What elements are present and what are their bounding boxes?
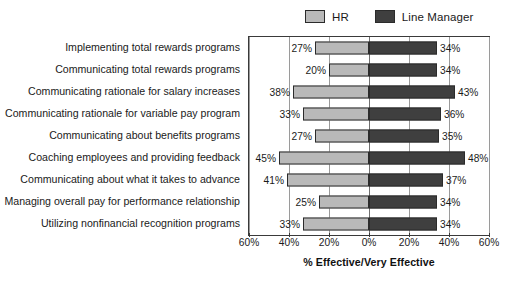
- bar-line-manager: [369, 130, 439, 143]
- x-tick-label: 20%: [319, 237, 339, 248]
- bar-line-manager: [369, 108, 441, 121]
- bar-value-hr: 33%: [280, 109, 300, 120]
- gridline: [489, 37, 490, 235]
- bar-value-line-manager: 34%: [440, 197, 460, 208]
- bar-value-hr: 25%: [296, 197, 316, 208]
- category-label: Communicating about what it takes to adv…: [20, 168, 240, 190]
- bar-hr: [315, 42, 369, 55]
- category-label: Managing overall pay for performance rel…: [4, 190, 240, 212]
- bar-row: 33%36%: [249, 103, 489, 125]
- x-tick-label: 60%: [239, 237, 259, 248]
- bar-row: 27%35%: [249, 125, 489, 147]
- bar-value-line-manager: 37%: [446, 175, 466, 186]
- plot-area: 27%34%20%34%38%43%33%36%27%35%45%48%41%3…: [248, 36, 490, 236]
- bar-value-hr: 45%: [256, 153, 276, 164]
- x-tick-label: 40%: [279, 237, 299, 248]
- x-tick-label: 0%: [362, 237, 377, 248]
- bar-row: 33%34%: [249, 213, 489, 235]
- chart-legend: HR Line Manager: [305, 10, 473, 23]
- bar-line-manager: [369, 86, 455, 99]
- bar-row: 41%37%: [249, 169, 489, 191]
- bar-hr: [293, 86, 369, 99]
- bar-hr: [303, 218, 369, 231]
- bar-hr: [287, 174, 369, 187]
- bar-hr: [315, 130, 369, 143]
- x-tick-label: 40%: [439, 237, 459, 248]
- bar-value-line-manager: 43%: [458, 87, 478, 98]
- bar-hr: [303, 108, 369, 121]
- diverging-bar-chart: HR Line Manager Implementing total rewar…: [0, 0, 518, 285]
- bar-value-hr: 41%: [264, 175, 284, 186]
- bar-row: 45%48%: [249, 147, 489, 169]
- legend-swatch-hr: [305, 10, 325, 23]
- bar-value-line-manager: 34%: [440, 219, 460, 230]
- bar-row: 38%43%: [249, 81, 489, 103]
- bar-row: 20%34%: [249, 59, 489, 81]
- legend-swatch-line-manager: [375, 10, 395, 23]
- bar-value-line-manager: 48%: [468, 153, 488, 164]
- bar-value-line-manager: 35%: [442, 131, 462, 142]
- category-label: Coaching employees and providing feedbac…: [29, 146, 240, 168]
- bar-line-manager: [369, 196, 437, 209]
- bar-value-line-manager: 34%: [440, 43, 460, 54]
- category-label: Utilizing nonfinancial recognition progr…: [41, 212, 240, 234]
- category-label: Communicating rationale for variable pay…: [5, 102, 240, 124]
- bar-row: 27%34%: [249, 37, 489, 59]
- x-tick-label: 60%: [479, 237, 499, 248]
- bar-line-manager: [369, 174, 443, 187]
- legend-item-hr: HR: [305, 10, 349, 23]
- x-tick-label: 20%: [399, 237, 419, 248]
- bar-value-hr: 27%: [292, 131, 312, 142]
- category-label: Communicating rationale for salary incre…: [28, 80, 240, 102]
- bar-line-manager: [369, 64, 437, 77]
- bar-value-hr: 27%: [292, 43, 312, 54]
- bar-row: 25%34%: [249, 191, 489, 213]
- legend-item-line-manager: Line Manager: [375, 10, 474, 23]
- bar-hr: [329, 64, 369, 77]
- bar-value-line-manager: 36%: [444, 109, 464, 120]
- bar-value-line-manager: 34%: [440, 65, 460, 76]
- bar-hr: [279, 152, 369, 165]
- bar-value-hr: 33%: [280, 219, 300, 230]
- bar-value-hr: 38%: [270, 87, 290, 98]
- category-axis-labels: Implementing total rewards programsCommu…: [0, 36, 244, 236]
- category-label: Communicating total rewards programs: [55, 58, 240, 80]
- bar-value-hr: 20%: [306, 65, 326, 76]
- x-axis: 60%40%20%0%20%40%60%: [248, 237, 490, 253]
- legend-label-line-manager: Line Manager: [402, 11, 474, 23]
- x-axis-title: % Effective/Very Effective: [248, 256, 490, 268]
- category-label: Implementing total rewards programs: [65, 36, 240, 58]
- legend-label-hr: HR: [332, 11, 349, 23]
- bar-line-manager: [369, 42, 437, 55]
- bar-line-manager: [369, 218, 437, 231]
- bar-hr: [319, 196, 369, 209]
- category-label: Communicating about benefits programs: [49, 124, 240, 146]
- bar-line-manager: [369, 152, 465, 165]
